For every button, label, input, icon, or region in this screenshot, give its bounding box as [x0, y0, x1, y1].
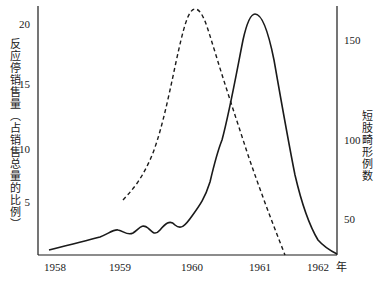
chart-canvas: 5 10 15 20 50 100 150 1958 1959 1960 196… — [0, 0, 376, 281]
x-tick-1958: 1958 — [44, 261, 67, 273]
left-tick-5: 5 — [25, 196, 31, 208]
series-thalidomide-sales-dashed — [123, 9, 285, 255]
x-tick-1961: 1961 — [249, 261, 271, 273]
series-limb-defect-cases-solid — [49, 14, 337, 254]
x-axis-unit-label: 年 — [336, 260, 347, 274]
right-tick-50: 50 — [344, 213, 356, 225]
left-y-axis-title: 反应停销售量（占销售总量的比例） — [6, 38, 22, 248]
x-tick-1962: 1962 — [307, 261, 329, 273]
right-tick-150: 150 — [344, 34, 361, 46]
left-tick-20: 20 — [19, 18, 31, 30]
x-tick-1960: 1960 — [181, 261, 204, 273]
x-tick-labels: 1958 1959 1960 1961 1962 年 — [44, 260, 347, 274]
x-tick-1959: 1959 — [109, 261, 132, 273]
right-y-axis-title: 短肢畸形例数 — [358, 110, 374, 182]
